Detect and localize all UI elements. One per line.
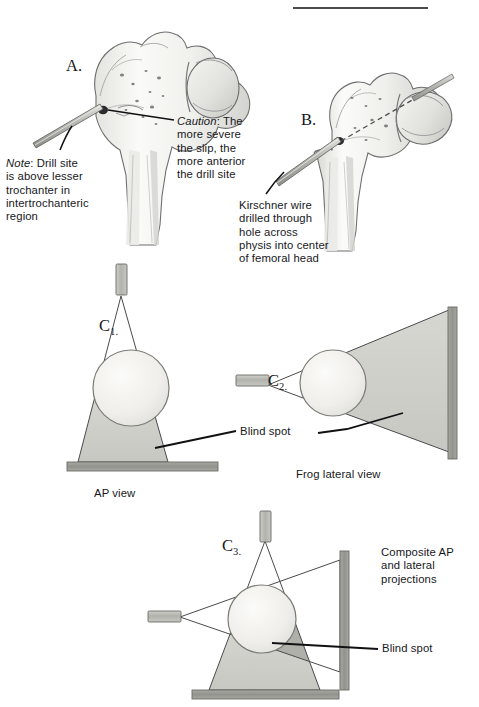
leader-blindspot-c1 [155,431,236,448]
panel-letter-a: A. [66,56,82,75]
annotation-note-drill-site: Note: Drill site is above lesser trochan… [6,157,124,224]
detector-plate-bottom-c3 [192,690,339,699]
figure-canvas: A. B. C1. C2. C3. Note: Drill site is ab… [0,0,479,707]
note-lead-word: Note [6,157,30,169]
femoral-head-circle-c3 [228,585,296,653]
xray-source-c1 [116,264,127,295]
panel-letter-c1-sub: 1. [110,327,118,338]
annotation-blind-spot-lower: Blind spot [382,642,458,655]
xray-source-lateral-c3 [148,611,181,622]
xray-source-ap-c3 [260,511,271,542]
caption-frog-lateral-view: Frog lateral view [296,468,381,481]
annotation-kirschner-wire: Kirschner wire drilled through hole acro… [239,199,363,266]
panel-letter-c2: C2. [268,352,287,394]
panel-letter-c1-main: C [99,316,110,335]
annotation-caution-drill-site: Caution: The more severe the slip, the m… [177,115,287,182]
diagram-c3-composite-view [148,511,350,700]
caution-lead-word: Caution [177,115,217,127]
annotation-blind-spot-upper: Blind spot [240,425,316,438]
panel-letter-b: B. [301,110,316,129]
panel-letter-c1: C1. [99,297,118,339]
panel-letter-c2-sub: 2. [279,382,287,393]
panel-letter-c3-main: C [222,536,233,555]
detector-plate-c2 [448,307,457,459]
panel-letter-c3-sub: 3. [233,547,241,558]
annotation-composite-projections: Composite AP and lateral projections [381,546,479,586]
drill-bit-a [33,104,103,148]
panel-letter-c3: C3. [222,517,241,559]
illustration-svg [0,0,479,707]
femoral-head-circle-c1 [93,350,169,426]
femoral-head-circle-c2 [300,350,366,416]
caption-ap-view: AP view [94,487,135,500]
detector-plate-c1 [67,462,218,471]
detector-plate-side-c3 [340,551,349,690]
panel-letter-c2-main: C [268,371,279,390]
xray-source-c2 [236,375,269,386]
